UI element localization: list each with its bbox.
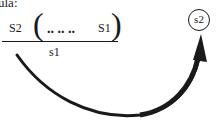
curved-arrow-icon bbox=[0, 0, 218, 124]
